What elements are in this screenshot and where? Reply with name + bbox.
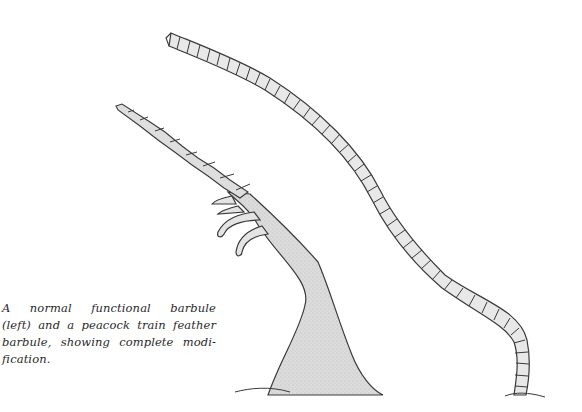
normal-barbule-stem: [228, 192, 383, 395]
caption-line-1: A normal functional barbule: [2, 300, 216, 317]
figure-caption: A normal functional barbule (left) and a…: [2, 300, 216, 368]
peacock-barbule-drawing: [166, 33, 545, 397]
caption-line-4: fication.: [2, 351, 216, 368]
normal-barbule-upper: [116, 104, 248, 198]
caption-line-2: (left) and a peacock train feather: [2, 317, 216, 334]
caption-line-3: barbule, showing complete modi-: [2, 334, 216, 351]
